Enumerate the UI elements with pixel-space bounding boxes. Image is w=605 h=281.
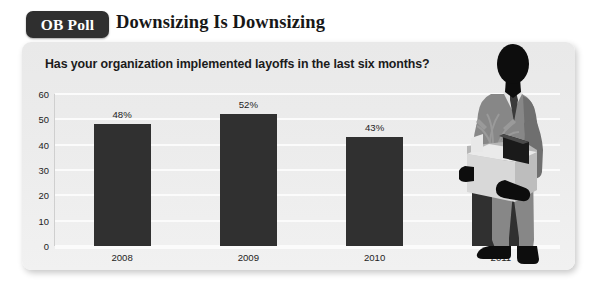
badge-label: OB Poll xyxy=(41,16,95,34)
y-axis-tick-label: 40 xyxy=(39,139,49,150)
y-axis-tick-label: 20 xyxy=(39,190,49,201)
header: OB Poll Downsizing Is Downsizing xyxy=(0,0,605,44)
businessman-carrying-box-illustration xyxy=(459,42,575,270)
x-axis-tick-label: 2009 xyxy=(220,252,277,263)
poll-infographic: OB Poll Downsizing Is Downsizing Has you… xyxy=(0,0,605,281)
y-axis-tick-label: 30 xyxy=(39,165,49,176)
bar-value-label: 48% xyxy=(94,109,151,120)
y-axis-tick-label: 0 xyxy=(44,241,49,252)
chart-bar xyxy=(220,114,277,246)
x-axis-tick-label: 2010 xyxy=(346,252,403,263)
chart-card: Has your organization implemented layoff… xyxy=(22,42,575,270)
bar-value-label: 43% xyxy=(346,122,403,133)
chart-bar xyxy=(346,137,403,246)
y-axis-tick-label: 10 xyxy=(39,215,49,226)
x-axis-tick-label: 2008 xyxy=(94,252,151,263)
y-axis-tick-label: 50 xyxy=(39,114,49,125)
ob-poll-badge: OB Poll xyxy=(26,11,109,38)
poll-question: Has your organization implemented layoff… xyxy=(45,57,430,71)
page-title: Downsizing Is Downsizing xyxy=(116,12,325,33)
chart-bar xyxy=(94,124,151,246)
y-axis-tick-label: 60 xyxy=(39,89,49,100)
bar-value-label: 52% xyxy=(220,99,277,110)
